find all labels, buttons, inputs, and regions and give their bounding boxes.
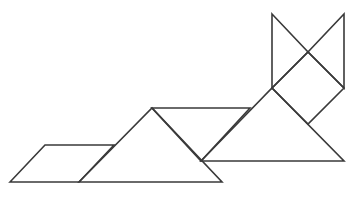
right-ear-piece [308,14,344,88]
medium-back-piece [152,108,250,161]
square-head-piece [272,52,344,124]
tangram-diagram [0,0,362,198]
left-ear-piece [272,14,308,88]
parallelogram-piece [10,145,114,182]
large-triangle-chest-piece [201,88,344,161]
